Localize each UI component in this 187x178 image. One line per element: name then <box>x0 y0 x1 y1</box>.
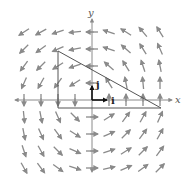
field-arrow <box>69 166 80 170</box>
field-arrow <box>70 149 81 154</box>
vector-field-diagram: x y i j <box>0 0 187 178</box>
field-arrow <box>159 60 161 72</box>
field-arrow <box>40 111 42 123</box>
unit-vectors: i j <box>92 79 115 106</box>
field-arrow <box>53 164 63 171</box>
field-arrow <box>52 30 63 34</box>
field-arrow <box>123 61 129 71</box>
field-arrow <box>56 112 61 123</box>
field-arrow <box>121 166 132 171</box>
field-arrow <box>37 62 45 70</box>
field-arrow <box>156 164 164 172</box>
field-arrow <box>22 145 26 156</box>
field-arrow <box>104 114 114 120</box>
field-arrow <box>22 78 27 89</box>
field-arrow <box>69 48 81 50</box>
field-arrow <box>54 147 62 155</box>
field-arrow <box>139 147 147 155</box>
field-arrow <box>140 112 146 122</box>
field-arrow <box>23 111 24 123</box>
field-arrow <box>70 80 80 86</box>
field-arrow <box>71 113 79 121</box>
field-arrow <box>125 77 127 89</box>
field-arrow <box>157 27 163 37</box>
field-arrow <box>158 44 163 55</box>
field-arrow <box>122 130 130 138</box>
field-arrow <box>103 149 114 153</box>
field-arrow <box>20 45 28 53</box>
field-arrow <box>122 112 129 122</box>
field-arrow <box>121 29 131 35</box>
field-arrow <box>142 77 143 89</box>
field-arrow <box>39 129 44 140</box>
field-arrow <box>121 148 131 154</box>
y-axis-label: y <box>87 7 94 18</box>
field-arrow <box>157 129 163 139</box>
field-arrow <box>121 45 130 53</box>
field-arrow <box>38 146 44 156</box>
field-arrow <box>104 132 115 137</box>
field-arrow <box>158 112 163 123</box>
field-arrow <box>103 30 114 34</box>
field-arrow <box>70 131 80 137</box>
field-arrow <box>38 78 44 88</box>
field-arrow <box>21 163 27 173</box>
field-arrow <box>138 164 148 171</box>
field-arrow <box>156 146 163 156</box>
x-axis-label: x <box>175 94 181 105</box>
field-arrow <box>139 27 147 36</box>
field-arrow <box>69 64 80 68</box>
unit-vector-i-label: i <box>111 95 115 106</box>
unit-vector-j-label: j <box>95 79 100 90</box>
field-arrow <box>69 31 81 32</box>
field-arrow <box>20 61 27 71</box>
field-arrow <box>36 29 46 35</box>
field-arrow <box>37 163 44 173</box>
field-arrow <box>103 167 115 170</box>
field-arrow <box>104 62 113 70</box>
field-arrow <box>53 47 64 52</box>
field-arrow <box>139 129 146 139</box>
field-arrow <box>140 44 146 54</box>
field-arrow <box>141 60 145 71</box>
field-arrow <box>36 45 46 52</box>
field-arrow <box>23 128 25 140</box>
field-arrow <box>19 29 29 36</box>
field-arrow <box>54 129 61 139</box>
field-arrow <box>103 47 114 51</box>
